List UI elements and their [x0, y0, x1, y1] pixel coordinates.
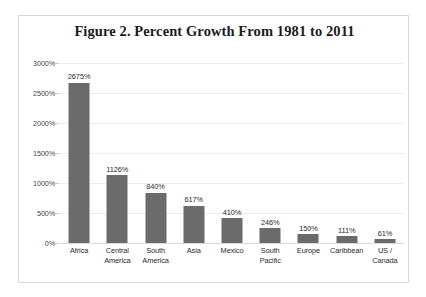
chart-frame: Figure 2. Percent Growth From 1981 to 20… — [18, 15, 409, 283]
y-tick-label: 1000% — [33, 179, 55, 188]
bar-value-label: 246% — [261, 218, 280, 227]
y-tick-mark — [55, 93, 59, 94]
x-tick-label: SouthAmerica — [136, 246, 174, 265]
x-tick-label: Africa — [60, 246, 98, 256]
bar-value-label: 840% — [146, 182, 165, 191]
y-tick-label: 0% — [45, 239, 55, 248]
y-tick-mark — [55, 243, 59, 244]
x-tick-label: Europe — [289, 246, 327, 256]
x-tick-label: Asia — [175, 246, 213, 256]
bar[interactable] — [69, 83, 90, 244]
bar-value-label: 617% — [185, 195, 204, 204]
bar[interactable] — [145, 193, 166, 243]
bar-group[interactable]: 61% — [366, 63, 404, 243]
bar-group[interactable]: 840% — [136, 63, 174, 243]
bar-group[interactable]: 111% — [328, 63, 366, 243]
figure-container: Figure 2. Percent Growth From 1981 to 20… — [0, 0, 426, 297]
axis-baseline — [60, 243, 404, 244]
x-tick-label: Caribbean — [328, 246, 366, 256]
bar-value-label: 111% — [338, 226, 355, 235]
bar-group[interactable]: 617% — [175, 63, 213, 243]
bar[interactable] — [374, 239, 395, 243]
y-tick-label: 2000% — [33, 119, 55, 128]
bar-value-label: 410% — [223, 208, 242, 217]
bar[interactable] — [107, 175, 128, 243]
y-tick-mark — [55, 153, 59, 154]
y-tick-mark — [55, 183, 59, 184]
bar-group[interactable]: 246% — [251, 63, 289, 243]
chart-title: Figure 2. Percent Growth From 1981 to 20… — [19, 23, 410, 40]
x-axis: AfricaCentralAmericaSouthAmericaAsiaMexi… — [60, 246, 404, 280]
bar-value-label: 61% — [378, 229, 393, 238]
bar[interactable] — [298, 234, 319, 243]
y-tick-label: 500% — [37, 209, 55, 218]
bar-group[interactable]: 2675% — [60, 63, 98, 243]
bar-group[interactable]: 410% — [213, 63, 251, 243]
bar-group[interactable]: 1126% — [98, 63, 136, 243]
bar-value-label: 1126% — [106, 165, 128, 174]
bar[interactable] — [221, 218, 242, 243]
x-tick-label: SouthPacific — [251, 246, 289, 265]
y-tick-mark — [55, 213, 59, 214]
y-axis: 0%500%1000%1500%2000%2500%3000% — [19, 63, 55, 243]
y-tick-mark — [55, 63, 59, 64]
y-tick-label: 3000% — [33, 59, 55, 68]
bars-layer: 2675%1126%840%617%410%246%150%111%61% — [60, 63, 404, 243]
bar-group[interactable]: 150% — [289, 63, 327, 243]
y-tick-label: 1500% — [33, 149, 55, 158]
y-tick-mark — [55, 123, 59, 124]
bar[interactable] — [183, 206, 204, 243]
bar[interactable] — [260, 228, 281, 243]
bar-value-label: 150% — [299, 224, 318, 233]
bar-value-label: 2675% — [68, 72, 91, 81]
y-tick-label: 2500% — [33, 89, 55, 98]
x-tick-label: CentralAmerica — [98, 246, 136, 265]
bar[interactable] — [336, 236, 357, 243]
x-tick-label: US /Canada — [366, 246, 404, 265]
x-tick-label: Mexico — [213, 246, 251, 256]
